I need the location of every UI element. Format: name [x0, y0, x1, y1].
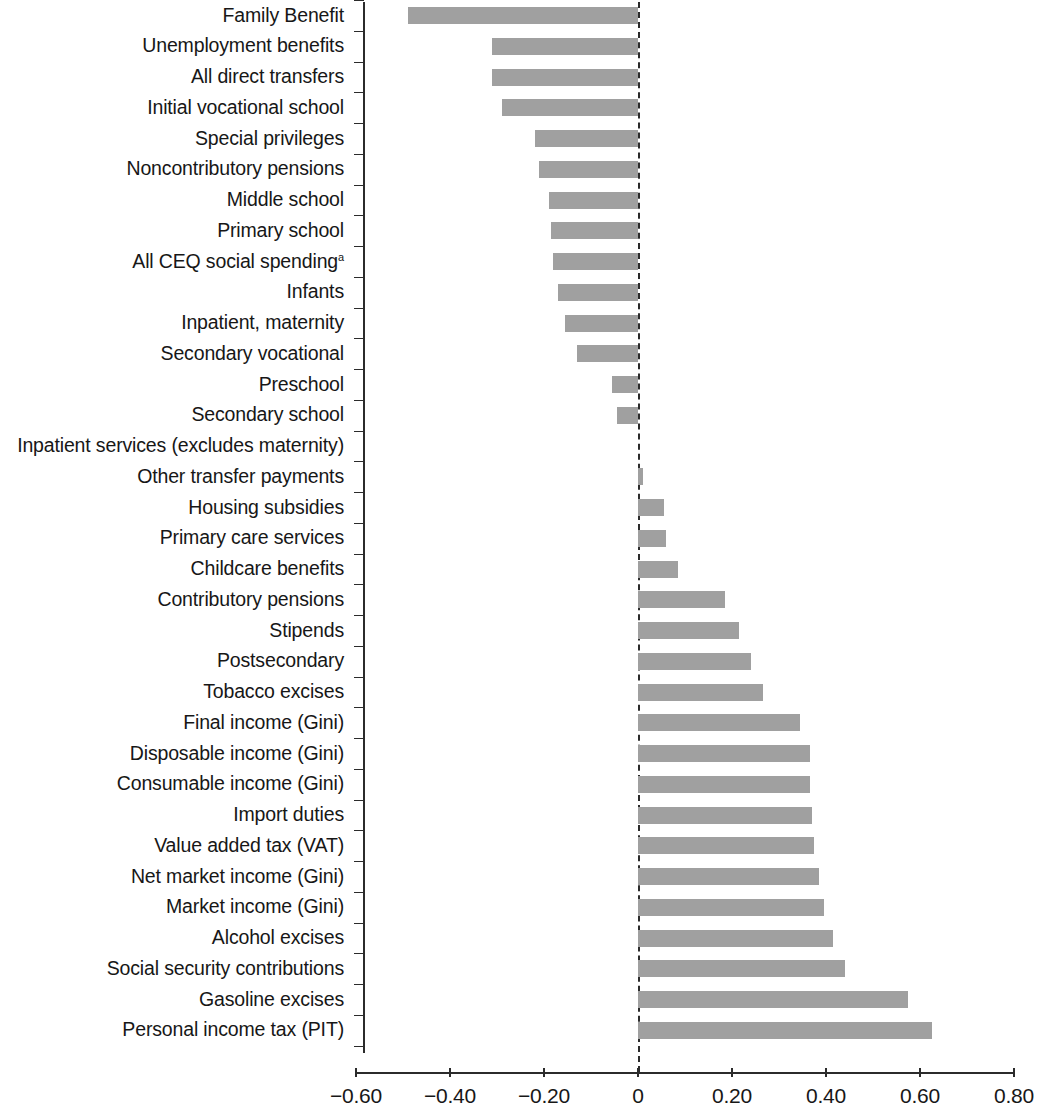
category-tick — [354, 123, 364, 124]
bar — [612, 376, 638, 393]
bar — [638, 837, 814, 854]
x-axis-tick — [449, 1068, 451, 1077]
bar — [549, 192, 638, 209]
bar — [617, 407, 638, 424]
category-tick — [354, 1046, 364, 1047]
bar — [638, 499, 664, 516]
bar — [638, 530, 666, 547]
category-tick — [354, 31, 364, 32]
bar — [551, 222, 638, 239]
x-axis-tick — [825, 1068, 827, 1077]
bar — [638, 776, 810, 793]
x-axis-tick-label: 0.20 — [712, 1084, 752, 1108]
bar — [638, 622, 739, 639]
bar — [638, 561, 678, 578]
bar — [558, 284, 638, 301]
category-tick — [354, 154, 364, 155]
bar — [539, 161, 638, 178]
category-tick — [354, 185, 364, 186]
category-tick — [354, 800, 364, 801]
bar — [638, 991, 908, 1008]
category-tick — [354, 677, 364, 678]
category-tick — [354, 369, 364, 370]
category-tick — [354, 62, 364, 63]
bar — [638, 930, 833, 947]
bar-chart: Family BenefitUnemployment benefitsAll d… — [0, 0, 1053, 1114]
category-tick — [354, 492, 364, 493]
x-axis-tick-label: 0.60 — [900, 1084, 940, 1108]
category-tick — [354, 400, 364, 401]
bar — [553, 253, 638, 270]
bar — [638, 714, 800, 731]
category-tick — [354, 0, 364, 1]
category-tick — [354, 953, 364, 954]
bar — [502, 99, 638, 116]
bar — [638, 745, 810, 762]
category-tick — [354, 707, 364, 708]
x-axis-tick-label: 0.40 — [806, 1084, 846, 1108]
x-axis-tick-label: 0 — [632, 1084, 643, 1108]
category-tick — [354, 984, 364, 985]
category-tick — [354, 861, 364, 862]
category-tick — [354, 738, 364, 739]
plot-area — [0, 0, 1053, 1062]
category-tick — [354, 830, 364, 831]
category-tick — [354, 615, 364, 616]
category-tick — [354, 277, 364, 278]
bar — [535, 130, 638, 147]
bar — [408, 7, 638, 24]
category-tick — [354, 554, 364, 555]
bar — [638, 591, 725, 608]
bar — [492, 38, 638, 55]
category-tick — [354, 769, 364, 770]
bar — [638, 468, 643, 485]
bar — [492, 69, 638, 86]
category-tick — [354, 892, 364, 893]
x-axis-tick-label: −0.20 — [518, 1084, 570, 1108]
x-axis-tick — [731, 1068, 733, 1077]
category-tick — [354, 215, 364, 216]
x-axis-tick — [637, 1068, 639, 1077]
x-axis-tick-label: 0.80 — [994, 1084, 1034, 1108]
bar — [565, 315, 638, 332]
category-tick — [354, 308, 364, 309]
category-tick — [354, 646, 364, 647]
category-axis-spine — [363, 2, 365, 1053]
category-tick — [354, 431, 364, 432]
category-tick — [354, 1015, 364, 1016]
x-axis-tick — [543, 1068, 545, 1077]
category-tick — [354, 584, 364, 585]
category-tick — [354, 338, 364, 339]
bar — [638, 899, 824, 916]
bar — [638, 1022, 932, 1039]
category-tick — [354, 92, 364, 93]
x-axis-tick-label: −0.40 — [424, 1084, 476, 1108]
x-axis-tick — [1013, 1068, 1015, 1077]
bar — [638, 807, 812, 824]
bar — [638, 684, 763, 701]
category-tick — [354, 246, 364, 247]
x-axis-tick — [355, 1068, 357, 1077]
bar — [638, 960, 845, 977]
bar — [638, 868, 819, 885]
category-tick — [354, 461, 364, 462]
bar — [638, 653, 751, 670]
bar — [577, 345, 638, 362]
x-axis-tick — [919, 1068, 921, 1077]
category-tick — [354, 523, 364, 524]
x-axis-line — [356, 1072, 1014, 1074]
category-tick — [354, 923, 364, 924]
x-axis-tick-label: −0.60 — [330, 1084, 382, 1108]
